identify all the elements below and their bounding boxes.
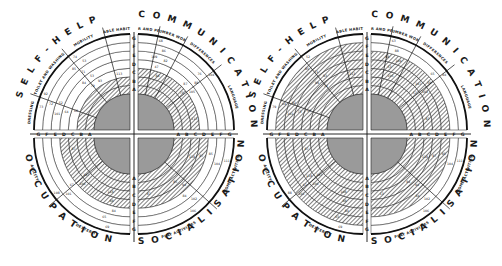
grade-label-right: E (444, 132, 447, 137)
cell-value: 87 (183, 82, 187, 86)
cell-value: 107 (415, 82, 421, 86)
cell-value: 102 (191, 197, 197, 201)
cell-value: 53 (82, 59, 86, 63)
cell-value: 86 (162, 49, 166, 53)
cell-value: 84 (183, 194, 187, 198)
cell-value: 88 (194, 81, 198, 85)
grade-label-bottom: D (365, 202, 369, 207)
cell-value: 101 (287, 112, 293, 116)
grade-label-left: A (321, 132, 325, 137)
grade-label-top: A (132, 87, 136, 92)
cell-value: 104 (447, 162, 453, 166)
cell-value: 52 (306, 55, 310, 59)
grade-label-bottom: D (132, 202, 136, 207)
grade-label-top: E (132, 53, 135, 58)
cell-value: 85 (209, 152, 213, 156)
grade-label-right: A (410, 132, 414, 137)
diagram-stage: 113871097668754788861048410582C O M M U … (0, 0, 502, 266)
cell-value: 109 (151, 55, 157, 59)
cell-value: 72 (49, 102, 53, 106)
quadrant-bottom-right: 879485102111858784104106118S O C I A L I… (138, 138, 246, 246)
grade-label-bottom: E (365, 210, 368, 215)
cell-value: 93 (323, 74, 327, 78)
cell-value: 87 (147, 192, 151, 196)
cell-value: 102 (424, 197, 430, 201)
grade-label-bottom: C (365, 193, 369, 198)
cell-value: 85 (305, 67, 309, 71)
grade-label-bottom: A (132, 176, 136, 181)
grade-label-top: B (132, 79, 136, 84)
cell-value: 73 (39, 105, 43, 109)
grade-label-left: F (45, 132, 48, 137)
cell-value: 108 (340, 190, 346, 194)
grade-label-right: D (435, 132, 439, 137)
cell-value: 101 (54, 112, 60, 116)
cell-value: 93 (98, 79, 102, 83)
cell-value: 53 (307, 109, 311, 113)
cell-value: 79 (91, 84, 95, 88)
grade-label-top: D (132, 62, 136, 67)
cell-value: 68 (159, 39, 163, 43)
cell-value: 65 (335, 215, 339, 219)
cell-value: 88 (385, 55, 389, 59)
grade-label-left: B (312, 132, 316, 137)
grade-label-right: G (228, 132, 232, 137)
cell-value: 84 (345, 209, 349, 213)
grade-label-top: C (132, 70, 136, 75)
cell-value: 47 (154, 65, 158, 69)
cell-value: 71 (314, 70, 318, 74)
cell-value: 87 (305, 147, 309, 151)
grade-label-bottom: G (132, 227, 136, 232)
cell-value: 67 (70, 183, 74, 187)
grade-label-right: G (461, 132, 465, 137)
grade-label-bottom: G (365, 227, 369, 232)
cell-value: 85 (72, 67, 76, 71)
cell-value: 99 (315, 81, 319, 85)
cell-value: 88 (288, 191, 292, 195)
cell-value: 53 (90, 74, 94, 78)
grade-label-left: F (278, 132, 281, 137)
grade-label-right: A (177, 132, 181, 137)
grade-label-top: E (365, 53, 368, 58)
cell-value: 68 (74, 109, 78, 113)
cell-value: 64 (65, 110, 69, 114)
cell-value: 85 (173, 180, 177, 184)
cell-value: 118 (422, 155, 428, 159)
grade-label-right: B (418, 132, 422, 137)
cell-value: 53 (387, 65, 391, 69)
cell-value: 84 (416, 194, 420, 198)
grade-label-left: G (269, 132, 273, 137)
cell-value: 104 (214, 162, 220, 166)
cell-value: 88 (110, 199, 114, 203)
grade-label-top: B (365, 79, 369, 84)
grade-label-left: D (295, 132, 299, 137)
cell-value: 74 (73, 55, 77, 59)
grade-label-top: F (365, 44, 368, 49)
cell-value: 88 (343, 199, 347, 203)
cell-value: 67 (303, 183, 307, 187)
cell-value: 84 (112, 209, 116, 213)
cell-value: 57 (413, 91, 417, 95)
cell-value: 106 (190, 209, 196, 213)
cell-value: 87 (72, 147, 76, 151)
grade-label-top: G (132, 36, 136, 41)
cell-value: 108 (54, 191, 60, 195)
cell-value: 94 (415, 183, 419, 187)
grade-label-bottom: C (132, 193, 136, 198)
cell-value: 69 (338, 225, 342, 229)
grade-label-right: D (202, 132, 206, 137)
grade-label-bottom: F (365, 219, 368, 224)
cell-value: 88 (395, 49, 399, 53)
quadrant-bottom-left: 871068410169107886765108118O C C U P A T… (23, 138, 130, 245)
grade-label-left: B (79, 132, 83, 137)
cell-value: 65 (102, 215, 106, 219)
cell-value: 92 (44, 92, 48, 96)
cell-value: 75 (180, 91, 184, 95)
cell-value: 87 (199, 154, 203, 158)
grade-label-bottom: B (365, 184, 369, 189)
grade-label-top: C (365, 70, 369, 75)
grade-label-right: F (220, 132, 223, 137)
cell-value: 118 (189, 155, 195, 159)
cell-value: 105 (189, 90, 195, 94)
cell-value: 73 (298, 110, 302, 114)
